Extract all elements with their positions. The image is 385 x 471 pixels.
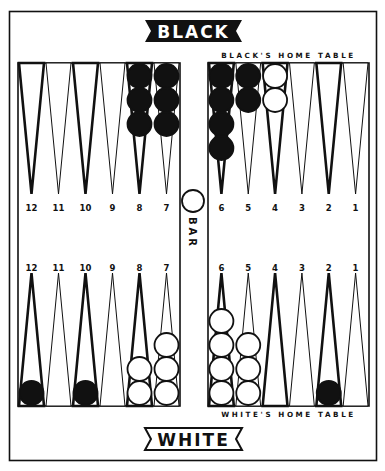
point-number-bottom_left-12: 12: [26, 263, 38, 273]
point-number-bottom_left-11: 11: [53, 263, 65, 273]
point-number-top_right-3: 3: [299, 203, 305, 213]
checker-black[interactable]: [209, 136, 233, 160]
checker-black[interactable]: [155, 112, 179, 136]
checker-white[interactable]: [155, 357, 179, 381]
left-board: [18, 63, 180, 406]
checker-white[interactable]: [209, 357, 233, 381]
point-number-top_left-12: 12: [26, 203, 38, 213]
checker-black[interactable]: [128, 64, 152, 88]
point-number-bottom_right-1: 1: [353, 263, 359, 273]
checker-white[interactable]: [155, 381, 179, 405]
checker-black[interactable]: [155, 88, 179, 112]
checker-white[interactable]: [209, 309, 233, 333]
point-number-top_left-9: 9: [110, 203, 116, 213]
checker-black[interactable]: [236, 88, 260, 112]
checker-white[interactable]: [236, 357, 260, 381]
checker-black[interactable]: [209, 112, 233, 136]
checker-white[interactable]: [236, 381, 260, 405]
black-title: BLACK: [157, 22, 230, 42]
point-number-bottom_left-7: 7: [164, 263, 170, 273]
point-number-top_right-4: 4: [272, 203, 278, 213]
point-number-top_right-5: 5: [245, 203, 251, 213]
checker-black[interactable]: [128, 112, 152, 136]
checker-black[interactable]: [155, 64, 179, 88]
checker-black[interactable]: [236, 64, 260, 88]
checker-white[interactable]: [128, 381, 152, 405]
checker-white[interactable]: [263, 88, 287, 112]
checker-black[interactable]: [74, 381, 98, 405]
point-number-bottom_right-2: 2: [326, 263, 332, 273]
checker-white[interactable]: [209, 381, 233, 405]
point-number-top_right-6: 6: [218, 203, 224, 213]
checker-black[interactable]: [128, 88, 152, 112]
point-number-bottom_right-5: 5: [245, 263, 251, 273]
point-number-top_left-11: 11: [53, 203, 65, 213]
point-number-bottom_right-4: 4: [272, 263, 278, 273]
point-number-bottom_right-6: 6: [218, 263, 224, 273]
point-number-top_left-7: 7: [164, 203, 170, 213]
checker-black[interactable]: [209, 88, 233, 112]
checker-white[interactable]: [263, 64, 287, 88]
point-number-bottom_left-9: 9: [110, 263, 116, 273]
checker-white[interactable]: [155, 333, 179, 357]
point-number-bottom_right-3: 3: [299, 263, 305, 273]
board-svg: BLACK WHITE BLACK'S HOME TABLE WHITE'S H…: [0, 0, 385, 471]
point-number-top_left-10: 10: [80, 203, 92, 213]
point-number-top_left-8: 8: [137, 203, 143, 213]
point-number-bottom_left-8: 8: [137, 263, 143, 273]
white-home-table-label: WHITE'S HOME TABLE: [221, 410, 356, 419]
bar-label: BAR: [187, 217, 198, 249]
checker-white[interactable]: [236, 333, 260, 357]
bar-checker-white: [182, 190, 204, 212]
right-board: [208, 63, 369, 406]
point-number-top_right-1: 1: [353, 203, 359, 213]
checker-white[interactable]: [209, 333, 233, 357]
backgammon-board-diagram: BLACK WHITE BLACK'S HOME TABLE WHITE'S H…: [0, 0, 385, 471]
checker-white[interactable]: [128, 357, 152, 381]
white-title: WHITE: [157, 430, 230, 450]
white-title-ribbon: WHITE: [145, 428, 242, 450]
point-number-bottom_left-10: 10: [80, 263, 92, 273]
black-home-table-label: BLACK'S HOME TABLE: [221, 51, 356, 60]
checker-black[interactable]: [209, 64, 233, 88]
checker-black[interactable]: [20, 381, 44, 405]
checker-black[interactable]: [317, 381, 341, 405]
black-title-ribbon: BLACK: [145, 20, 242, 42]
point-number-top_right-2: 2: [326, 203, 332, 213]
